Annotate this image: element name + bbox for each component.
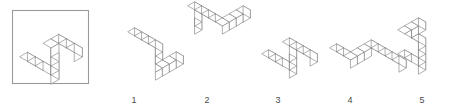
option-label-1[interactable]: 1 (131, 95, 136, 105)
option-label-4[interactable]: 4 (347, 95, 352, 105)
figure-canvas: 12345 (0, 0, 464, 109)
option-label-3[interactable]: 3 (275, 95, 280, 105)
option-label-2[interactable]: 2 (204, 95, 209, 105)
mental-rotation-figure: 12345 (0, 0, 464, 109)
option-label-5[interactable]: 5 (419, 95, 424, 105)
